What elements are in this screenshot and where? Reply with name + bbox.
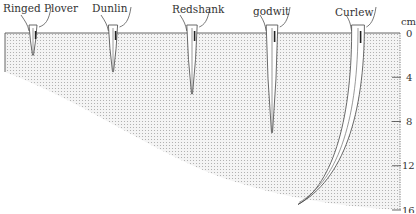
depth-tick-label: 16: [402, 205, 415, 214]
mud-region: [5, 33, 400, 210]
depth-tick-label: 0: [406, 28, 412, 39]
bill-nostril-mark: [360, 31, 362, 43]
bill-nostril-mark: [115, 31, 117, 40]
bill-nostril-mark: [35, 31, 37, 39]
bill-nostril-mark: [274, 31, 276, 42]
bird-name-label: godwit: [253, 5, 290, 17]
depth-tick-label: 4: [406, 72, 412, 83]
bill-depth-diagram: cm 0481216 Ringed PloverDunlinRedshankgo…: [0, 0, 416, 213]
bird-name-label: Redshank: [172, 3, 225, 15]
depth-tick-label: 8: [406, 116, 412, 127]
bird-name-label: Dunlin: [92, 2, 128, 14]
depth-tick-label: 12: [402, 160, 415, 171]
bird-name-label: Curlew: [335, 6, 373, 18]
bill-nostril-mark: [194, 31, 196, 41]
depth-unit-label: cm: [401, 16, 416, 27]
bird-name-label: Ringed Plover: [3, 2, 79, 14]
